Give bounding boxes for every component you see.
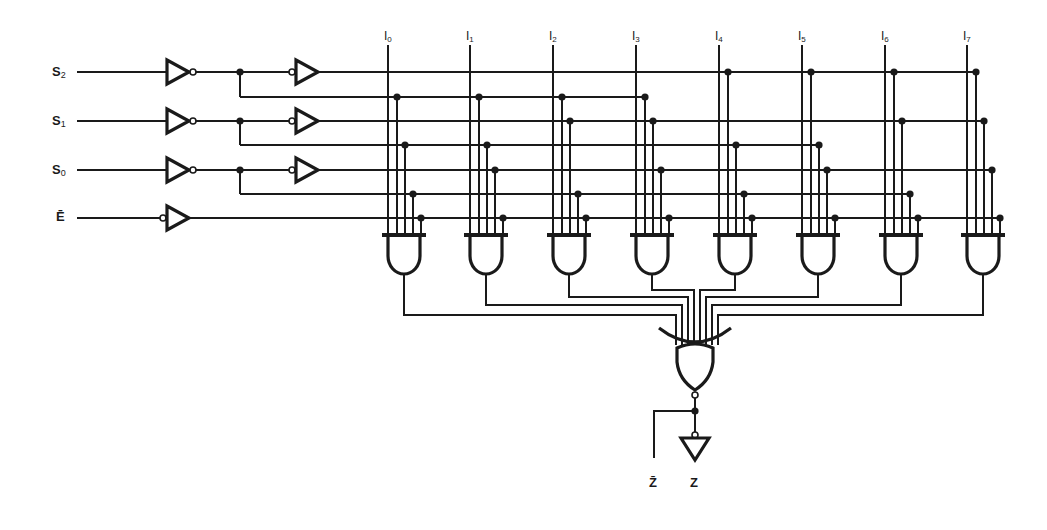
junction-dot — [417, 214, 424, 221]
junction-dot — [724, 68, 731, 75]
output-label-z: Z — [690, 476, 698, 489]
label-base: S — [52, 64, 61, 79]
enable-buffer-icon — [167, 206, 189, 230]
junction-dot — [807, 68, 814, 75]
and-gate-icon — [553, 235, 585, 274]
data-input-label-i3: I3 — [632, 30, 640, 44]
junction-dot — [483, 141, 490, 148]
and-to-nor-wire — [404, 274, 676, 345]
inversion-bubble — [190, 167, 196, 173]
inversion-bubble — [289, 118, 295, 124]
and-gate-icon — [388, 235, 420, 274]
junction-dot — [649, 117, 656, 124]
junction-dot — [972, 68, 979, 75]
label-subscript: 6 — [884, 35, 888, 44]
junction-dot — [566, 117, 573, 124]
buffer-inverter-icon — [296, 158, 318, 182]
junction-dot — [890, 68, 897, 75]
and-to-nor-wire — [718, 274, 983, 345]
junction-dot — [393, 93, 400, 100]
and-gate-icon — [636, 235, 668, 274]
inverter-icon — [167, 158, 189, 182]
junction-dot — [491, 166, 498, 173]
buffer-inverter-icon — [296, 60, 318, 84]
label-subscript: 0 — [61, 168, 66, 178]
label-subscript: 3 — [635, 35, 639, 44]
junction-dot — [732, 141, 739, 148]
junction-dot — [823, 166, 830, 173]
label-subscript: 1 — [61, 119, 66, 129]
junction-dot — [815, 141, 822, 148]
junction-dot — [996, 214, 1003, 221]
and-gate-icon — [967, 235, 999, 274]
label-subscript: 4 — [718, 35, 722, 44]
label-subscript: 7 — [966, 35, 970, 44]
inversion-bubble — [692, 392, 698, 398]
junction-dot — [409, 190, 416, 197]
junction-dot — [914, 214, 921, 221]
data-input-label-i4: I4 — [715, 30, 723, 44]
inversion-bubble — [289, 167, 295, 173]
buffer-inverter-icon — [296, 109, 318, 133]
data-input-label-i2: I2 — [549, 30, 557, 44]
select-label-s2: S2 — [52, 65, 66, 80]
label-subscript: 5 — [801, 35, 805, 44]
inversion-bubble — [190, 69, 196, 75]
and-gate-icon — [470, 235, 502, 274]
data-input-label-i5: I5 — [798, 30, 806, 44]
junction-dot — [641, 93, 648, 100]
junction-dot — [657, 166, 664, 173]
enable-label: Ē — [56, 210, 65, 223]
data-input-label-i6: I6 — [881, 30, 889, 44]
junction-dot — [574, 190, 581, 197]
junction-dot — [980, 117, 987, 124]
label-subscript: 0 — [387, 35, 391, 44]
junction-dot — [582, 214, 589, 221]
junction-dot — [898, 117, 905, 124]
inversion-bubble — [190, 118, 196, 124]
label-base: S — [52, 162, 61, 177]
mux-schematic — [0, 0, 1047, 530]
label-subscript: 1 — [469, 35, 473, 44]
output-label-z_bar: Z̄ — [649, 476, 657, 489]
and-to-nor-wire — [712, 274, 901, 345]
select-label-s0: S0 — [52, 163, 66, 178]
junction-dot — [988, 166, 995, 173]
junction-dot — [831, 214, 838, 221]
junction-dot — [748, 214, 755, 221]
junction-dot — [475, 93, 482, 100]
junction-dot — [740, 190, 747, 197]
junction-dot — [665, 214, 672, 221]
select-label-s1: S1 — [52, 114, 66, 129]
data-input-label-i7: I7 — [963, 30, 971, 44]
and-gate-icon — [802, 235, 834, 274]
junction-dot — [906, 190, 913, 197]
data-input-label-i1: I1 — [466, 30, 474, 44]
nor-gate-icon — [677, 344, 713, 390]
and-gate-icon — [719, 235, 751, 274]
inverter-icon — [167, 60, 189, 84]
junction-dot — [558, 93, 565, 100]
label-subscript: 2 — [61, 70, 66, 80]
label-base: S — [52, 113, 61, 128]
inverter-icon — [167, 109, 189, 133]
output-inverter-icon — [681, 438, 709, 460]
label-subscript: 2 — [552, 35, 556, 44]
and-gate-icon — [885, 235, 917, 274]
inversion-bubble — [289, 69, 295, 75]
data-input-label-i0: I0 — [384, 30, 392, 44]
inversion-bubble — [160, 215, 166, 221]
junction-dot — [499, 214, 506, 221]
junction-dot — [401, 141, 408, 148]
